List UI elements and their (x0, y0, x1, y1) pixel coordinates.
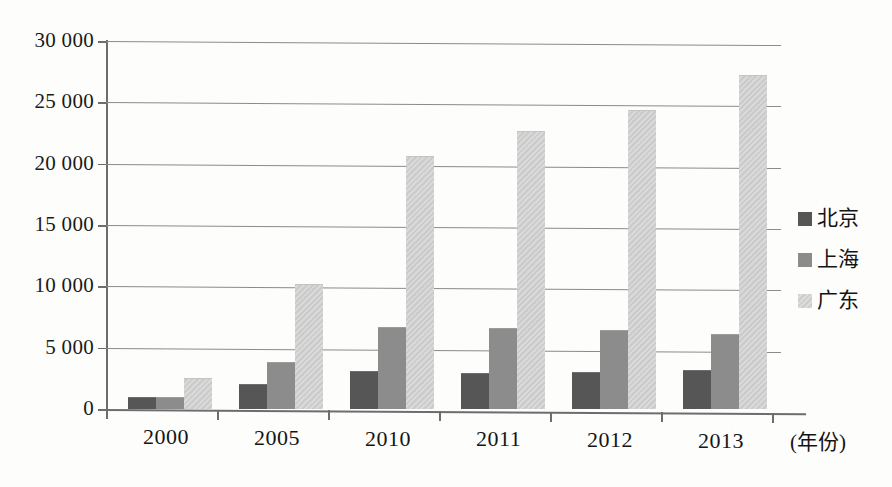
bar-group-2012 (572, 41, 656, 409)
x-axis-tick (328, 410, 330, 420)
legend-swatch-icon (798, 294, 812, 308)
x-axis-tick (217, 410, 219, 420)
legend-swatch-icon (798, 253, 812, 267)
bar-广东-2000 (184, 378, 212, 409)
bar-group-2005 (239, 41, 323, 409)
bar-广东-2013 (739, 75, 767, 409)
y-axis-labels: 05 00010 00015 00020 00025 00030 000 (0, 0, 94, 487)
legend-label: 广东 (817, 290, 859, 311)
legend-swatch-icon (798, 212, 812, 226)
x-axis-tick-label-2011: 2011 (476, 426, 521, 452)
bar-北京-2011 (461, 373, 489, 409)
bar-北京-2013 (683, 370, 711, 409)
legend-label: 北京 (817, 208, 859, 229)
y-axis-tick-label: 20 000 (34, 153, 94, 174)
x-axis-tick-label-2000: 2000 (143, 424, 189, 450)
x-axis-tick-label-2005: 2005 (254, 425, 300, 451)
x-axis-tick (772, 413, 774, 423)
bar-广东-2005 (295, 284, 323, 409)
bar-上海-2011 (489, 328, 517, 409)
x-axis-tick (106, 409, 108, 419)
legend-item-北京[interactable]: 北京 (798, 198, 888, 239)
bar-group-2010 (350, 41, 434, 409)
x-axis-line (106, 409, 806, 415)
bar-北京-2012 (572, 372, 600, 409)
legend: 北京上海广东 (798, 198, 888, 321)
bar-上海-2000 (156, 397, 184, 409)
bar-chart: 05 00010 00015 00020 00025 00030 000 200… (0, 0, 892, 487)
x-axis-tick-label-2012: 2012 (587, 427, 633, 453)
bar-上海-2010 (378, 327, 406, 409)
bar-上海-2005 (267, 362, 295, 409)
x-axis-tick (661, 412, 663, 422)
legend-label: 上海 (817, 249, 859, 270)
bar-上海-2012 (600, 330, 628, 409)
legend-item-上海[interactable]: 上海 (798, 239, 888, 280)
x-axis-tick (439, 411, 441, 421)
x-axis-tick-label-2013: 2013 (698, 428, 744, 454)
bar-广东-2012 (628, 110, 656, 409)
y-axis-tick-label: 5 000 (45, 337, 94, 358)
bar-广东-2011 (517, 131, 545, 409)
y-axis-tick-label: 10 000 (34, 275, 94, 296)
y-axis-tick-label: 15 000 (34, 214, 94, 235)
y-axis-tick-label: 0 (83, 398, 94, 419)
bar-group-2013 (683, 41, 767, 409)
y-axis-tick-label: 30 000 (34, 30, 94, 51)
legend-item-广东[interactable]: 广东 (798, 280, 888, 321)
bar-group-2011 (461, 41, 545, 409)
plot-area (106, 41, 781, 409)
bar-北京-2010 (350, 371, 378, 409)
bar-北京-2005 (239, 384, 267, 409)
bar-广东-2010 (406, 156, 434, 409)
bar-上海-2013 (711, 334, 739, 409)
bar-group-2000 (128, 41, 212, 409)
x-axis-tick-label-2010: 2010 (365, 426, 411, 452)
y-axis-tick-label: 25 000 (34, 91, 94, 112)
x-axis-title: (年份) (790, 425, 846, 455)
bar-北京-2000 (128, 397, 156, 409)
x-axis-tick (550, 412, 552, 422)
